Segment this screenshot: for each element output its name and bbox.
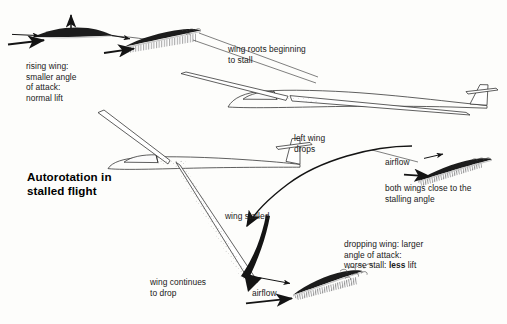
label-wing-roots-stalling: wing roots beginning to stall bbox=[228, 44, 306, 65]
diagram-canvas: Autorotation in stalled flight rising wi… bbox=[0, 0, 507, 324]
dropping-wing-emphasis-less: less bbox=[389, 260, 406, 270]
label-airflow-right: airflow bbox=[385, 157, 410, 168]
label-left-wing-drops: left wing drops bbox=[294, 133, 325, 154]
glider-level-flight bbox=[181, 72, 498, 115]
wing-drop-curved-arrow bbox=[241, 215, 270, 292]
label-airflow-bottom: airflow bbox=[252, 288, 277, 299]
page-title: Autorotation in stalled flight bbox=[27, 170, 112, 197]
label-rising-wing: rising wing: smaller angle of attack: no… bbox=[26, 61, 76, 103]
glider-banked-autorotating bbox=[98, 110, 312, 282]
dropping-wing-line-2: angle of attack: bbox=[344, 250, 402, 260]
label-dropping-wing: dropping wing: largerangle of attack:wor… bbox=[344, 239, 423, 271]
dropping-wing-line-3-post: lift bbox=[405, 260, 416, 270]
label-wing-continues-to-drop: wing continues to drop bbox=[150, 277, 206, 298]
dropping-wing-line-1: dropping wing: larger bbox=[344, 239, 423, 249]
label-both-wings-stalling-angle: both wings close to the stalling angle bbox=[385, 183, 471, 204]
airfoil-section-normal-lift bbox=[8, 15, 146, 45]
label-wing-stalled: wing stalled bbox=[225, 211, 269, 222]
airfoil-section-near-stalling-angle bbox=[372, 150, 492, 186]
dropping-wing-line-3-pre: worse stall: bbox=[344, 260, 389, 270]
